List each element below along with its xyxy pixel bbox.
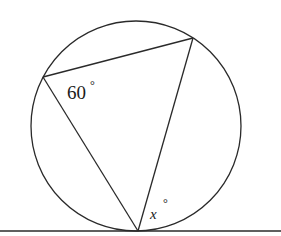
angle-60-degree-symbol: ° xyxy=(90,78,95,92)
chord-left-to-bottom xyxy=(43,77,138,231)
circle-tangent-diagram: 60 ° x ° xyxy=(0,0,281,236)
angle-x-label: x xyxy=(149,206,157,222)
angle-60-label: 60 xyxy=(67,82,86,103)
chord-left-to-top-right xyxy=(43,38,193,77)
diagram-canvas: 60 ° x ° xyxy=(0,0,281,236)
angle-x-degree-symbol: ° xyxy=(163,196,168,210)
